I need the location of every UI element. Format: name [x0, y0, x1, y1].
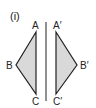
figure-label: (i)	[10, 10, 20, 22]
triangle-abc-prime	[56, 32, 77, 94]
reflection-diagram: (i) A B C A′ B′ C′	[0, 0, 96, 108]
vertex-label-c: C	[32, 96, 39, 107]
vertex-label-b-prime: B′	[80, 60, 89, 71]
vertex-label-a-prime: A′	[53, 20, 62, 31]
vertex-label-b: B	[6, 60, 13, 71]
vertex-label-c-prime: C′	[53, 96, 62, 107]
vertex-label-a: A	[32, 20, 39, 31]
triangle-abc	[16, 32, 36, 94]
